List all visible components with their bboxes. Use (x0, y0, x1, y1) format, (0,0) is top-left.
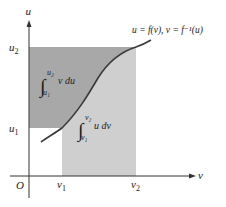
integral-lower-limit: u₁ (43, 88, 50, 97)
horizontal-axis-arrow-icon (189, 174, 196, 179)
integral-upper-limit: v₂ (85, 113, 92, 122)
tick-v2: v2 (131, 178, 140, 193)
tick-u2: u2 (9, 41, 19, 56)
curve-label: u = f(v), v = f⁻¹(u) (132, 25, 203, 36)
vertical-axis-arrow-icon (27, 20, 32, 27)
integration-by-parts-diagram: u v O u2 u1 v1 v2 u = f(v), v = f⁻¹(u) ∫… (0, 0, 226, 207)
integral-upper-limit: u₂ (47, 68, 54, 77)
vertical-axis-label: u (26, 5, 32, 17)
integral-lower-limit: v₁ (81, 133, 88, 142)
origin-label: O (16, 179, 24, 191)
tick-u1: u1 (9, 122, 19, 137)
tick-v1: v1 (57, 178, 66, 193)
integrand: u dv (94, 120, 112, 131)
integrand: v du (58, 75, 75, 86)
horizontal-axis-label: v (198, 169, 203, 181)
